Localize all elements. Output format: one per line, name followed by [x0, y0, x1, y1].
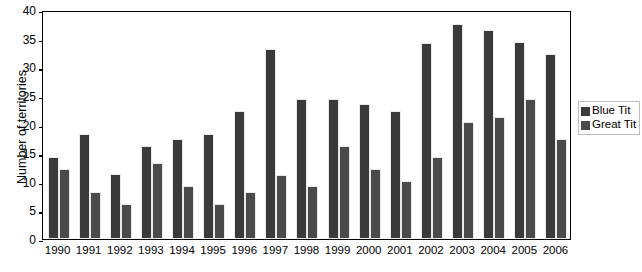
- bar: [48, 157, 59, 239]
- y-axis-tick-label: 20: [8, 120, 36, 132]
- bar-group: [448, 12, 479, 239]
- bar: [328, 99, 339, 239]
- bar: [359, 104, 370, 239]
- y-axis-tick-mark: [39, 184, 43, 185]
- bar: [556, 139, 567, 239]
- bar: [59, 169, 70, 239]
- y-axis-tick-label: 25: [8, 91, 36, 103]
- bar-group: [167, 12, 198, 239]
- x-axis-tick-label: 2004: [478, 244, 509, 256]
- bar: [339, 146, 350, 239]
- bar-group: [416, 12, 447, 239]
- plot-area: [42, 11, 571, 240]
- bar-group: [510, 12, 541, 239]
- x-axis-tick-label: 1990: [42, 244, 73, 256]
- bar: [463, 122, 474, 239]
- legend-swatch-icon: [581, 121, 590, 130]
- y-axis-tick-label: 10: [8, 177, 36, 189]
- y-axis-tick-label: 5: [8, 205, 36, 217]
- y-axis-tick-mark: [39, 69, 43, 70]
- x-axis-tick-label: 2002: [415, 244, 446, 256]
- x-axis-tick-label: 2006: [540, 244, 571, 256]
- x-axis-tick-label: 2000: [353, 244, 384, 256]
- x-axis-tick-label: 1999: [322, 244, 353, 256]
- bar: [90, 192, 101, 239]
- bar-group: [74, 12, 105, 239]
- x-axis-tick-label: 2001: [384, 244, 415, 256]
- y-axis-tick-mark: [39, 127, 43, 128]
- bar-group: [199, 12, 230, 239]
- bar: [545, 54, 556, 239]
- bar: [421, 43, 432, 239]
- bar: [401, 181, 412, 239]
- bar: [432, 157, 443, 239]
- bar: [390, 111, 401, 239]
- y-axis-tick-mark: [39, 155, 43, 156]
- bars-layer: [43, 12, 570, 239]
- x-axis-tick-label: 1995: [198, 244, 229, 256]
- x-axis-tick-label: 1992: [104, 244, 135, 256]
- bar: [265, 49, 276, 239]
- bar-group: [105, 12, 136, 239]
- x-axis-tick-label: 1993: [135, 244, 166, 256]
- bar: [234, 111, 245, 239]
- x-axis-tick-label: 1991: [73, 244, 104, 256]
- bar-group: [541, 12, 572, 239]
- y-axis-tick-label: 15: [8, 148, 36, 160]
- bar-group: [354, 12, 385, 239]
- y-axis-tick-labels: 0510152025303540: [0, 0, 36, 272]
- bar: [214, 204, 225, 239]
- y-axis-tick-mark: [39, 241, 43, 242]
- x-axis-tick-label: 2005: [509, 244, 540, 256]
- bar: [370, 169, 381, 239]
- bar: [110, 174, 121, 239]
- y-axis-tick-mark: [39, 41, 43, 42]
- bar: [172, 139, 183, 239]
- bar: [183, 186, 194, 239]
- y-axis-tick-label: 35: [8, 34, 36, 46]
- legend-item-label: Blue Tit: [592, 105, 630, 117]
- legend-item: Great Tit: [581, 118, 636, 132]
- legend-swatch-icon: [581, 107, 590, 116]
- y-axis-tick-mark: [39, 98, 43, 99]
- x-axis-tick-label: 1997: [260, 244, 291, 256]
- y-axis-tick-label: 0: [8, 234, 36, 246]
- x-axis-tick-label: 1996: [229, 244, 260, 256]
- bar: [296, 99, 307, 239]
- y-axis-tick-label: 30: [8, 62, 36, 74]
- bar: [152, 163, 163, 239]
- bar-chart: Number of territories 0510152025303540 1…: [0, 0, 642, 272]
- legend-item-label: Great Tit: [592, 119, 636, 131]
- bar-group: [479, 12, 510, 239]
- chart-legend: Blue TitGreat Tit: [578, 101, 640, 135]
- bar-group: [323, 12, 354, 239]
- legend-item: Blue Tit: [581, 104, 636, 118]
- bar-group: [261, 12, 292, 239]
- x-axis-tick-label: 1998: [291, 244, 322, 256]
- bar: [494, 117, 505, 240]
- bar: [79, 134, 90, 239]
- bar: [452, 24, 463, 239]
- bar: [307, 186, 318, 239]
- bar-group: [136, 12, 167, 239]
- y-axis-tick-mark: [39, 212, 43, 213]
- bar: [203, 134, 214, 239]
- x-axis-tick-label: 2003: [447, 244, 478, 256]
- bar: [276, 175, 287, 239]
- bar: [525, 99, 536, 239]
- bar: [245, 192, 256, 239]
- bar-group: [230, 12, 261, 239]
- x-axis-tick-labels: 1990199119921993199419951996199719981999…: [42, 244, 571, 268]
- bar: [121, 204, 132, 239]
- bar-group: [43, 12, 74, 239]
- bar: [514, 42, 525, 240]
- bar: [141, 146, 152, 239]
- y-axis-tick-mark: [39, 12, 43, 13]
- y-axis-tick-label: 40: [8, 5, 36, 17]
- bar-group: [385, 12, 416, 239]
- bar: [483, 30, 494, 239]
- x-axis-tick-label: 1994: [166, 244, 197, 256]
- bar-group: [292, 12, 323, 239]
